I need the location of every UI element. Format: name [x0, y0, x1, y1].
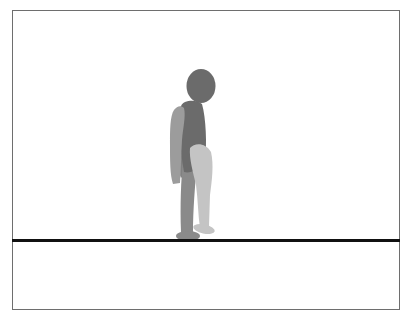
scene-canvas [0, 0, 412, 320]
head [187, 69, 216, 103]
ground-line [12, 239, 400, 242]
